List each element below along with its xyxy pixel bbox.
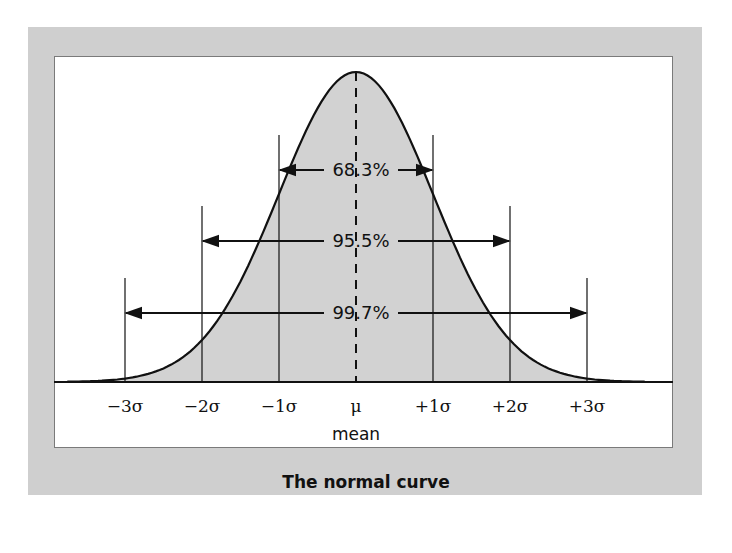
- figure-caption: The normal curve: [0, 472, 732, 492]
- interval-label: 99.7%: [332, 302, 389, 323]
- interval-955: 95.5%: [203, 230, 509, 251]
- normal-curve-chart: 68.3%95.5%99.7% −3σ−2σ−1σμ+1σ+2σ+3σ mean: [0, 0, 732, 553]
- tick-label: −3σ: [107, 396, 144, 416]
- mean-label: mean: [332, 424, 380, 444]
- interval-label: 95.5%: [332, 230, 389, 251]
- tick-label: −1σ: [261, 396, 298, 416]
- tick-label: +1σ: [415, 396, 452, 416]
- tick-label: +3σ: [569, 396, 606, 416]
- interval-label: 68.3%: [332, 159, 389, 180]
- tick-label: −2σ: [184, 396, 221, 416]
- tick-label: +2σ: [492, 396, 529, 416]
- tick-label: μ: [350, 396, 361, 416]
- interval-997: 99.7%: [126, 302, 586, 323]
- axis-tick-labels: −3σ−2σ−1σμ+1σ+2σ+3σ: [107, 396, 606, 416]
